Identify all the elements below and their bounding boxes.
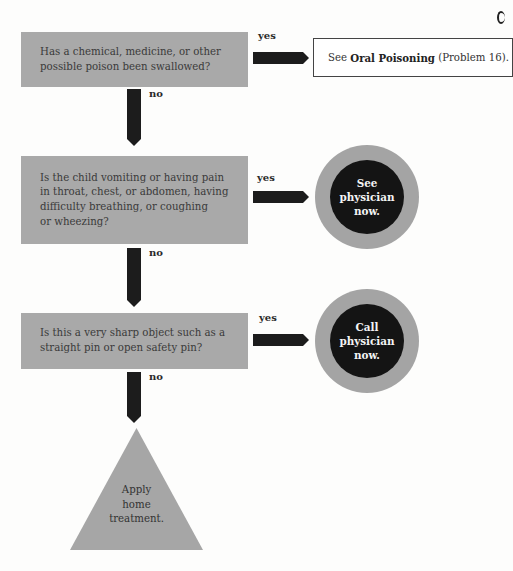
question-line: straight pin or open safety pin?	[40, 341, 225, 356]
question-line: Is the child vomiting or having pain	[40, 171, 228, 186]
outcome-core: Call physician now.	[330, 304, 404, 378]
question-line: Is this a very sharp object such as a	[40, 326, 225, 341]
arrow-right-icon	[253, 191, 309, 203]
outcome-text: home	[70, 498, 203, 513]
question-line: difficulty breathing, or coughing	[40, 200, 228, 215]
outcome-text: physician	[339, 190, 394, 204]
referral-prefix: See	[328, 52, 350, 63]
yes-label: yes	[259, 312, 277, 323]
question-line: or wheezing?	[40, 215, 228, 230]
arrow-right-icon	[253, 334, 309, 346]
no-label: no	[149, 247, 163, 258]
outcome-call-physician: Call physician now.	[315, 289, 419, 393]
outcome-text: now.	[354, 204, 380, 218]
arrow-down-icon	[127, 372, 141, 423]
no-label: no	[149, 88, 163, 99]
question-box-poison-swallowed: Has a chemical, medicine, or other possi…	[21, 32, 248, 87]
outcome-text: physician	[339, 334, 394, 348]
referral-link-text: Oral Poisoning	[350, 52, 435, 64]
outcome-text: now.	[354, 348, 380, 362]
outcome-home-treatment: Apply home treatment.	[70, 483, 203, 527]
question-box-symptoms: Is the child vomiting or having pain in …	[21, 156, 248, 244]
outcome-text: treatment.	[70, 512, 203, 527]
arrow-down-icon	[127, 89, 141, 146]
yes-label: yes	[257, 172, 275, 183]
arrow-down-icon	[127, 248, 141, 307]
referral-suffix: (Problem 16).	[435, 52, 509, 63]
page-edge-mark	[497, 11, 505, 24]
question-line: possible poison been swallowed?	[40, 60, 221, 75]
question-line: Has a chemical, medicine, or other	[40, 45, 221, 60]
outcome-see-physician: See physician now.	[315, 145, 419, 249]
outcome-text: Call	[356, 320, 379, 334]
outcome-text: Apply	[70, 483, 203, 498]
arrow-right-icon	[253, 52, 309, 64]
no-label: no	[149, 371, 163, 382]
question-line: in throat, chest, or abdomen, having	[40, 185, 228, 200]
yes-label: yes	[258, 30, 276, 41]
question-box-sharp-object: Is this a very sharp object such as a st…	[21, 313, 248, 369]
referral-oral-poisoning: See Oral Poisoning (Problem 16).	[313, 38, 513, 77]
outcome-core: See physician now.	[330, 160, 404, 234]
outcome-text: See	[357, 176, 378, 190]
